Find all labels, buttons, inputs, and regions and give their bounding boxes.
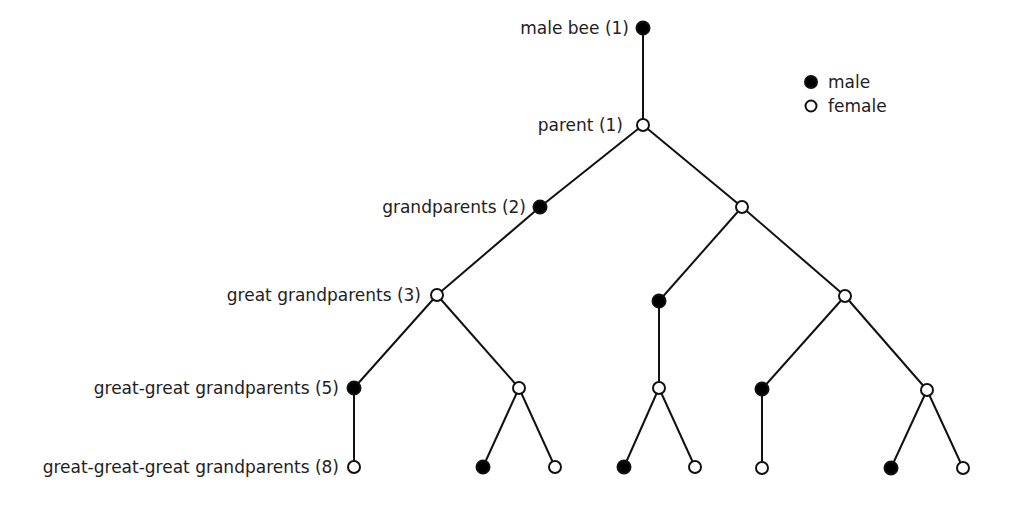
- female-node-icon: [513, 382, 525, 394]
- tree-edges: [354, 28, 963, 468]
- tree-edge: [354, 295, 437, 388]
- legend-male-label: male: [828, 72, 870, 92]
- female-node-icon: [957, 462, 969, 474]
- female-node-icon: [839, 290, 851, 302]
- tree-edge: [659, 207, 742, 301]
- female-node-icon: [689, 461, 701, 473]
- male-node-icon: [618, 461, 631, 474]
- female-node-icon: [921, 384, 933, 396]
- generation-label: great-great-great grandparents (8): [43, 457, 339, 477]
- generation-label: great-great grandparents (5): [94, 378, 339, 398]
- tree-edge: [845, 296, 927, 390]
- male-node-icon: [637, 22, 650, 35]
- male-node-icon: [885, 462, 898, 475]
- generation-label: grandparents (2): [382, 197, 526, 217]
- male-node-icon: [534, 201, 547, 214]
- tree-edge: [643, 125, 742, 207]
- tree-edge: [437, 295, 519, 388]
- male-node-icon: [477, 461, 490, 474]
- male-node-icon: [756, 383, 769, 396]
- male-node-icon: [653, 295, 666, 308]
- female-node-icon: [431, 289, 443, 301]
- tree-edge: [483, 388, 519, 467]
- female-node-icon: [549, 461, 561, 473]
- tree-edge: [437, 207, 540, 295]
- generation-label: great grandparents (3): [227, 285, 421, 305]
- female-node-icon: [653, 382, 665, 394]
- tree-edge: [540, 125, 643, 207]
- tree-edge: [742, 207, 845, 296]
- tree-edge: [762, 296, 845, 389]
- female-node-icon: [736, 201, 748, 213]
- female-node-icon: [348, 461, 360, 473]
- tree-edge: [891, 390, 927, 468]
- legend-female-icon: [806, 101, 817, 112]
- female-node-icon: [756, 462, 768, 474]
- female-node-icon: [637, 119, 649, 131]
- legend-female-label: female: [828, 96, 887, 116]
- generation-label: male bee (1): [520, 18, 629, 38]
- tree-edge: [659, 388, 695, 467]
- tree-edge: [624, 388, 659, 467]
- tree-nodes: [348, 22, 970, 475]
- legend-male-icon: [805, 76, 817, 88]
- generation-label: parent (1): [538, 115, 623, 135]
- male-node-icon: [348, 382, 361, 395]
- tree-edge: [519, 388, 555, 467]
- tree-edge: [927, 390, 963, 468]
